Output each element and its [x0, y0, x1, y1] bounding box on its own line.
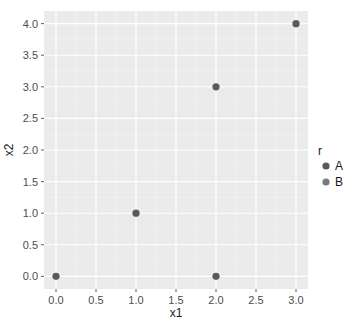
- y-tick-label: 3.0: [23, 81, 38, 93]
- y-tick-label: 0.5: [23, 239, 38, 251]
- data-point: [212, 273, 219, 280]
- data-point: [132, 210, 139, 217]
- x-tick-label: 1.0: [128, 294, 143, 306]
- data-point: [52, 273, 59, 280]
- legend-label: A: [335, 159, 343, 173]
- legend-key-icon: [322, 162, 329, 169]
- x-tick-label: 2.5: [248, 294, 263, 306]
- y-tick-label: 3.5: [23, 49, 38, 61]
- y-axis-ticks: 0.00.51.01.52.02.53.03.54.0: [23, 18, 44, 283]
- data-point: [212, 83, 219, 90]
- x-axis-title: x1: [170, 306, 183, 320]
- legend-title: r: [318, 144, 322, 158]
- legend-label: B: [335, 175, 343, 189]
- x-axis-ticks: 0.00.51.01.52.02.53.0: [48, 289, 303, 306]
- scatter-chart: 0.00.51.01.52.02.53.0 0.00.51.01.52.02.5…: [0, 0, 355, 325]
- x-tick-label: 2.0: [208, 294, 223, 306]
- x-tick-label: 1.5: [168, 294, 183, 306]
- y-tick-label: 2.5: [23, 112, 38, 124]
- y-tick-label: 1.0: [23, 207, 38, 219]
- data-point: [292, 20, 299, 27]
- y-tick-label: 2.0: [23, 144, 38, 156]
- y-axis-title: x2: [2, 143, 16, 156]
- x-tick-label: 0.5: [88, 294, 103, 306]
- legend: r AB: [318, 144, 343, 189]
- y-tick-label: 1.5: [23, 176, 38, 188]
- legend-key-icon: [322, 178, 329, 185]
- x-tick-label: 0.0: [48, 294, 63, 306]
- y-tick-label: 4.0: [23, 18, 38, 30]
- y-tick-label: 0.0: [23, 270, 38, 282]
- legend-entries: AB: [322, 159, 343, 189]
- x-tick-label: 3.0: [288, 294, 303, 306]
